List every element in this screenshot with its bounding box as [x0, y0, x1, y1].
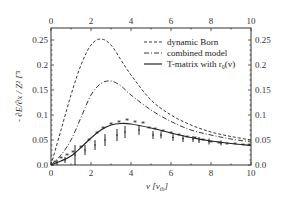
legend-label: dynamic Born — [167, 37, 219, 47]
legend: dynamic Borncombined modelT-matrix with … — [144, 37, 235, 69]
x-tick-label-top: 4 — [129, 16, 134, 26]
y-tick-label-right: 0.05 — [255, 135, 271, 145]
error-bar-point — [152, 134, 154, 136]
x-tick-label-top: 8 — [209, 16, 214, 26]
x-tick-label-bottom: 0 — [49, 168, 54, 178]
error-bar-point — [64, 159, 66, 161]
x-axis-label: v [vth] — [146, 181, 168, 192]
star-marker: * — [59, 155, 63, 164]
star-marker: * — [71, 149, 75, 158]
y-axis-label: - ∂E/∂x / Z² Γ³ — [14, 71, 24, 122]
error-bar-point — [116, 134, 118, 136]
star-marker: * — [95, 130, 99, 139]
legend-label: T-matrix with r₀(v) — [167, 59, 235, 69]
error-bar-point — [56, 162, 58, 164]
error-bar-point — [74, 154, 76, 156]
star-marker: * — [101, 125, 105, 134]
star-marker: * — [87, 137, 91, 146]
error-bar-point — [182, 138, 184, 140]
legend-label: combined model — [167, 48, 228, 58]
star-marker: * — [217, 140, 221, 149]
star-marker: * — [209, 139, 213, 148]
star-marker: * — [201, 137, 205, 146]
x-tick-label-bottom: 8 — [209, 168, 214, 178]
x-tick-label-bottom: 4 — [129, 168, 134, 178]
x-tick-label-top: 0 — [49, 16, 54, 26]
error-bar-point — [84, 149, 86, 151]
error-bar-point — [104, 139, 106, 141]
y-tick-label-right: 0.15 — [255, 85, 271, 95]
error-bar-point — [198, 139, 200, 141]
star-marker: * — [79, 144, 83, 153]
star-marker: * — [125, 117, 129, 126]
error-bar-point — [160, 134, 162, 136]
y-tick-label-right: 0.2 — [255, 60, 266, 70]
star-marker: * — [161, 128, 165, 137]
star-marker: * — [233, 141, 237, 150]
x-tick-label-bottom: 6 — [169, 168, 174, 178]
star-marker: * — [177, 132, 181, 141]
error-bar-point — [172, 137, 174, 139]
y-tick-label-left: 0.15 — [32, 85, 48, 95]
error-bar-point — [220, 142, 222, 144]
y-tick-label-right: 0.0 — [255, 160, 267, 170]
y-tick-label-left: 0.25 — [32, 35, 48, 45]
y-tick-label-left: 0.2 — [37, 60, 48, 70]
star-marker: * — [117, 119, 121, 128]
star-marker: * — [133, 119, 137, 128]
star-marker: * — [247, 142, 251, 151]
star-marker: * — [147, 125, 151, 134]
y-tick-label-left: 0.0 — [37, 160, 49, 170]
error-bar-point — [138, 129, 140, 131]
y-tick-label-right: 0.1 — [255, 110, 266, 120]
star-marker: * — [153, 126, 157, 135]
error-bar-point — [208, 141, 210, 143]
star-marker: * — [241, 142, 245, 151]
star-marker: * — [109, 121, 113, 130]
error-bar-point — [94, 144, 96, 146]
error-bar-point — [192, 138, 194, 140]
star-marker: * — [141, 120, 145, 129]
star-marker: * — [225, 141, 229, 150]
data-markers: *************************** — [53, 117, 251, 168]
energy-loss-chart: 002244668810100.00.00.050.050.10.10.150.… — [0, 0, 285, 203]
y-tick-label-right: 0.25 — [255, 35, 271, 45]
y-tick-label-left: 0.05 — [32, 135, 48, 145]
error-bar-point — [124, 131, 126, 133]
x-tick-label-top: 6 — [169, 16, 174, 26]
y-tick-label-left: 0.1 — [37, 110, 48, 120]
x-tick-label-top: 10 — [247, 16, 257, 26]
x-tick-label-bottom: 2 — [89, 168, 94, 178]
x-tick-label-top: 2 — [89, 16, 94, 26]
star-marker: * — [185, 134, 189, 143]
